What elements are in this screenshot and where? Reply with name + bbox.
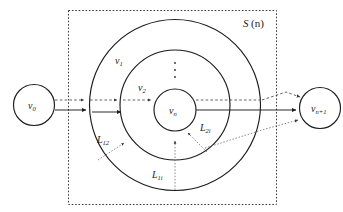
ellipsis-dot (174, 76, 176, 78)
region-title-label: S(n) (243, 17, 264, 30)
diagram-canvas: S(n) v0 vn vn+1 v1 v2 L12 L2i (0, 0, 343, 212)
ellipsis-dot (174, 69, 176, 71)
figure-container: S(n) v0 vn vn+1 v1 v2 L12 L2i (0, 0, 343, 212)
edge-label-l2i: L2i (199, 122, 211, 134)
ring-label-outer: v1 (115, 55, 123, 67)
ellipsis-dot (174, 62, 176, 64)
edge-label-l12: L12 (96, 134, 110, 146)
edge-label-l1i: L1i (151, 169, 163, 181)
ring-label-middle: v2 (138, 82, 146, 94)
pointer-arrow-l2i (188, 133, 207, 152)
flow-arrow-dashed-upper-to-sink (262, 92, 300, 100)
